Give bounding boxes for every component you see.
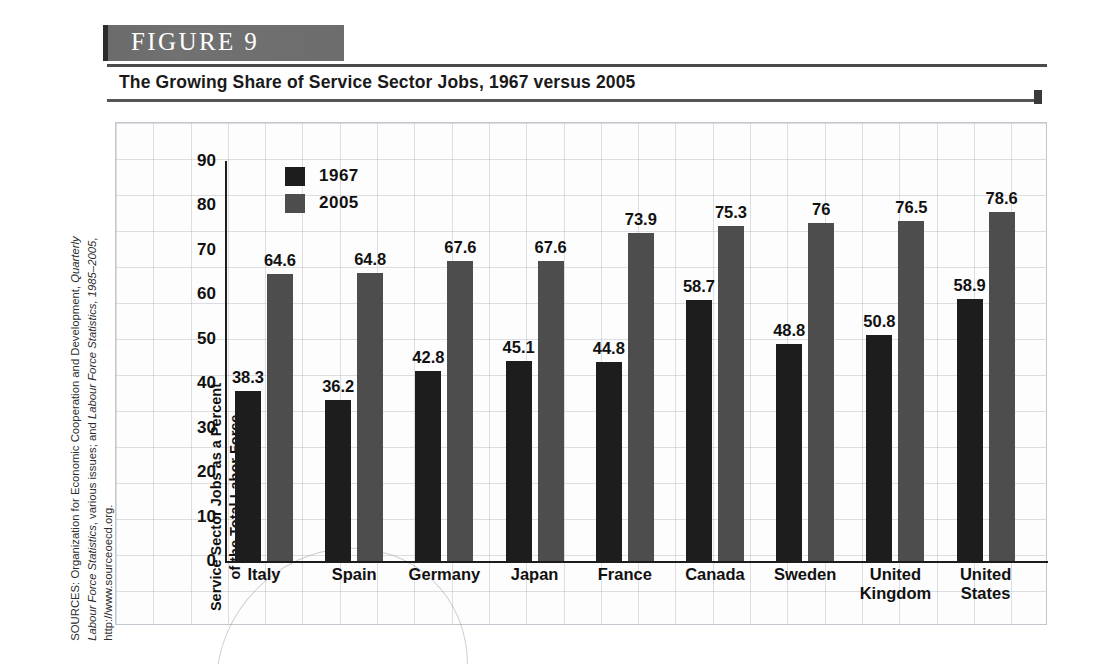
bar-value-label: 44.8 xyxy=(593,339,625,358)
y-axis-tick-40: 40 xyxy=(172,373,216,393)
x-axis-category-label: Sweden xyxy=(774,565,836,584)
y-axis-tick-70: 70 xyxy=(172,240,216,260)
figure-number-label: FIGURE 9 xyxy=(131,28,259,56)
bar[interactable]: 58.9 xyxy=(957,299,983,561)
bar-value-label: 45.1 xyxy=(503,338,535,357)
bar-group: 44.873.9France xyxy=(596,161,654,561)
y-axis-tick-90: 90 xyxy=(172,151,216,171)
bar-value-label: 64.8 xyxy=(354,250,386,269)
bar[interactable]: 64.6 xyxy=(267,274,293,561)
bar[interactable]: 58.7 xyxy=(686,300,712,561)
y-axis-tick-60: 60 xyxy=(172,284,216,304)
figure-title: The Growing Share of Service Sector Jobs… xyxy=(119,72,635,93)
bar-group: 42.867.6Germany xyxy=(415,161,473,561)
bar[interactable]: 67.6 xyxy=(538,261,564,561)
source-note: SOURCES: Organization for Economic Coope… xyxy=(67,171,117,641)
bar[interactable]: 38.3 xyxy=(235,391,261,561)
bar[interactable]: 36.2 xyxy=(325,400,351,561)
y-axis-tick-80: 80 xyxy=(172,195,216,215)
bar-value-label: 78.6 xyxy=(986,189,1018,208)
y-axis-tick-20: 20 xyxy=(172,462,216,482)
bar-value-label: 58.7 xyxy=(683,277,715,296)
bar-value-label: 58.9 xyxy=(954,276,986,295)
y-axis-tick-50: 50 xyxy=(172,329,216,349)
chart-panel: Service Sector Jobs as a Percent of the … xyxy=(115,122,1047,625)
bar[interactable]: 42.8 xyxy=(415,371,441,561)
plot-area: 9080706050403020100 19672005 38.364.6Ita… xyxy=(225,161,1048,561)
bar[interactable]: 78.6 xyxy=(989,212,1015,561)
bar-value-label: 50.8 xyxy=(863,312,895,331)
bar[interactable]: 76 xyxy=(808,223,834,561)
bar-value-label: 67.6 xyxy=(444,238,476,257)
bar-value-label: 76 xyxy=(812,200,830,219)
x-axis-category-label: France xyxy=(598,565,652,584)
x-axis-category-label: United States xyxy=(960,565,1011,603)
y-axis-tick-30: 30 xyxy=(172,418,216,438)
bar-group: 58.978.6United States xyxy=(957,161,1015,561)
x-axis-category-label: United Kingdom xyxy=(860,565,932,603)
title-rule-top xyxy=(107,64,1047,67)
x-axis-category-label: Spain xyxy=(332,565,377,584)
y-axis-tick-0: 0 xyxy=(172,551,216,571)
bar[interactable]: 50.8 xyxy=(866,335,892,561)
bar[interactable]: 48.8 xyxy=(776,344,802,561)
bar-value-label: 42.8 xyxy=(412,348,444,367)
bar-value-label: 38.3 xyxy=(232,368,264,387)
bar-value-label: 64.6 xyxy=(264,251,296,270)
bar-value-label: 73.9 xyxy=(625,210,657,229)
figure-header-band: FIGURE 9 xyxy=(107,25,344,61)
bar-group: 38.364.6Italy xyxy=(235,161,293,561)
x-axis-line xyxy=(225,561,1048,563)
bar[interactable]: 73.9 xyxy=(628,233,654,561)
bar[interactable]: 76.5 xyxy=(898,221,924,561)
bar[interactable]: 67.6 xyxy=(447,261,473,561)
bar-value-label: 67.6 xyxy=(535,238,567,257)
bar-group: 45.167.6Japan xyxy=(506,161,564,561)
bar[interactable]: 75.3 xyxy=(718,226,744,561)
bar-value-label: 75.3 xyxy=(715,203,747,222)
bar-value-label: 36.2 xyxy=(322,377,354,396)
bar-group: 50.876.5United Kingdom xyxy=(866,161,924,561)
bar[interactable]: 44.8 xyxy=(596,362,622,561)
bar[interactable]: 64.8 xyxy=(357,273,383,561)
y-axis-line xyxy=(225,161,227,562)
bar-group: 48.876Sweden xyxy=(776,161,834,561)
bar-group: 36.264.8Spain xyxy=(325,161,383,561)
bar[interactable]: 45.1 xyxy=(506,361,532,561)
title-rule-endcap-marker xyxy=(1034,90,1042,104)
x-axis-category-label: Italy xyxy=(247,565,280,584)
y-axis-tick-10: 10 xyxy=(172,507,216,527)
bar-value-label: 48.8 xyxy=(773,321,805,340)
bar-value-label: 76.5 xyxy=(895,198,927,217)
x-axis-category-label: Japan xyxy=(511,565,559,584)
bar-group: 58.775.3Canada xyxy=(686,161,744,561)
x-axis-category-label: Canada xyxy=(685,565,745,584)
title-rule-bottom xyxy=(107,99,1037,102)
x-axis-category-label: Germany xyxy=(409,565,481,584)
